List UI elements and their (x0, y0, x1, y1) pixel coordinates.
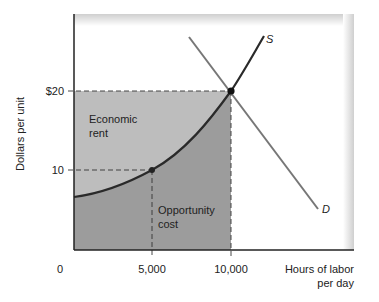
chart: S D Economic rent Opportunity cost $20 1… (0, 0, 379, 302)
frame-right-band (343, 14, 354, 250)
supply-label: S (266, 33, 274, 45)
x-axis-label-2: per day (317, 277, 354, 289)
opportunity-cost-label-1: Opportunity (158, 204, 215, 216)
opportunity-cost-label-2: cost (158, 218, 178, 230)
equilibrium-point (227, 87, 234, 94)
economic-rent-label-1: Economic (89, 113, 138, 125)
x-tick-0: 0 (57, 263, 63, 275)
x-axis-label-1: Hours of labor (285, 263, 354, 275)
frame-top-band (74, 14, 354, 26)
economic-rent-label-2: rent (89, 127, 108, 139)
x-tick-10000: 10,000 (214, 263, 248, 275)
point-5000-10 (149, 167, 155, 173)
y-tick-20: $20 (46, 85, 64, 97)
y-tick-10: 10 (52, 164, 64, 176)
demand-label: D (322, 203, 330, 215)
x-tick-5000: 5,000 (138, 263, 166, 275)
y-axis-label: Dollars per unit (14, 97, 26, 171)
